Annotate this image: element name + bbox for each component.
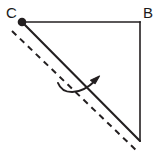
segment-hypotenuse-CA (22, 22, 140, 141)
vertex-label-B: B (143, 5, 153, 20)
figure-canvas (0, 0, 159, 158)
vertex-marker-C (18, 18, 27, 27)
vertex-label-C: C (6, 5, 17, 20)
geometry-figure: C B (0, 0, 159, 158)
